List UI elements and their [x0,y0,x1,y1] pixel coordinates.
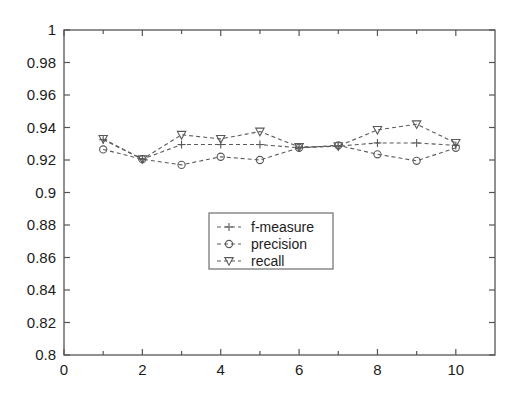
legend-label-precision: precision [251,236,307,252]
chart-legend: f-measureprecisionrecall [209,213,333,269]
y-tick-label: 0.88 [27,216,56,233]
y-tick-label: 0.94 [27,119,56,136]
y-tick-label: 0.96 [27,86,56,103]
x-tick-label: 10 [447,361,464,378]
y-tick-label: 1 [48,21,56,38]
legend-label-recall: recall [251,253,284,269]
chart-figure: 0246810 0.80.820.840.860.880.90.920.940.… [0,0,518,406]
x-tick-label: 8 [373,361,381,378]
legend-label-f-measure: f-measure [251,219,314,235]
y-tick-label: 0.84 [27,281,56,298]
y-tick-label: 0.82 [27,314,56,331]
x-tick-label: 6 [295,361,303,378]
figure-background [0,0,518,406]
x-tick-label: 4 [217,361,225,378]
y-tick-label: 0.9 [35,184,56,201]
x-tick-label: 2 [138,361,146,378]
x-tick-label: 0 [60,361,68,378]
y-tick-label: 0.92 [27,151,56,168]
line-chart: 0246810 0.80.820.840.860.880.90.920.940.… [0,0,518,406]
y-tick-label: 0.8 [35,346,56,363]
y-tick-label: 0.98 [27,54,56,71]
y-tick-label: 0.86 [27,249,56,266]
